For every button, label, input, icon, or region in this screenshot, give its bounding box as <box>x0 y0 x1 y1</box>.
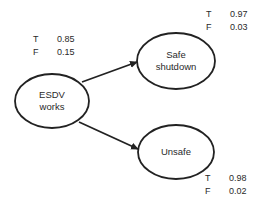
prob-row-true: T 0.97 <box>206 8 248 21</box>
node-esdv-works-label-line2: works <box>39 101 65 112</box>
prob-row-false: F 0.15 <box>33 46 75 59</box>
node-safe-shutdown[interactable]: Safe shutdown <box>137 33 215 89</box>
prob-value: 0.03 <box>230 21 248 34</box>
prob-row-true: T 0.98 <box>205 172 247 185</box>
prob-value: 0.98 <box>229 172 247 185</box>
node-esdv-works-label-line1: ESDV <box>39 89 66 100</box>
prob-table-esdv-works: T 0.85 F 0.15 <box>33 33 75 59</box>
state-label: T <box>33 33 57 46</box>
prob-value: 0.15 <box>57 46 75 59</box>
prob-table-safe-shutdown: T 0.97 F 0.03 <box>206 8 248 34</box>
prob-value: 0.97 <box>230 8 248 21</box>
edge-esdv-to-unsafe <box>79 122 138 149</box>
node-unsafe[interactable]: Unsafe <box>138 125 214 179</box>
prob-row-false: F 0.03 <box>206 21 248 34</box>
state-label: F <box>206 21 230 34</box>
edge-esdv-to-safe-shutdown <box>82 62 137 82</box>
prob-value: 0.85 <box>57 33 75 46</box>
node-safe-shutdown-label-line1: Safe <box>166 49 186 60</box>
prob-value: 0.02 <box>229 185 247 198</box>
prob-row-false: F 0.02 <box>205 185 247 198</box>
state-label: F <box>33 46 57 59</box>
node-safe-shutdown-label-line2: shutdown <box>156 61 197 72</box>
node-unsafe-label: Unsafe <box>161 146 191 157</box>
prob-row-true: T 0.85 <box>33 33 75 46</box>
state-label: T <box>205 172 229 185</box>
prob-table-unsafe: T 0.98 F 0.02 <box>205 172 247 198</box>
node-esdv-works[interactable]: ESDV works <box>15 74 89 128</box>
state-label: T <box>206 8 230 21</box>
state-label: F <box>205 185 229 198</box>
